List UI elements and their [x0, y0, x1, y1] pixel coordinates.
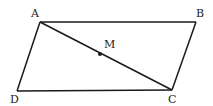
label-c: C [168, 93, 176, 106]
label-m: M [104, 38, 115, 51]
diagonal-ac [40, 22, 172, 90]
label-b: B [196, 7, 204, 20]
segment-da [17, 22, 40, 91]
segment-bc [172, 22, 196, 90]
label-d: D [10, 93, 19, 106]
segment-cd [17, 90, 172, 91]
label-a: A [30, 7, 40, 20]
midpoint-m-dot [98, 52, 102, 56]
parallelogram-diagram: A B C D M [0, 0, 213, 106]
